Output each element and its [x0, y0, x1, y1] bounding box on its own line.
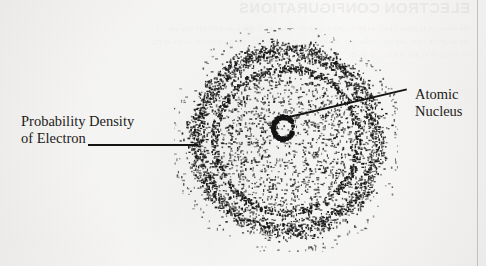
column-rule [477, 0, 478, 266]
label-atomic-nucleus: Atomic Nucleus [415, 86, 463, 120]
label-atomic-nucleus-line1: Atomic [415, 86, 463, 103]
label-probability-density-line2: of Electron [21, 130, 134, 147]
label-atomic-nucleus-line2: Nucleus [415, 103, 463, 120]
label-probability-density-line1: Probability Density [21, 113, 134, 130]
electron-probability-density-cloud [174, 28, 398, 252]
bleed-through-heading: ELECTRON CONFIGURATIONS [200, 0, 470, 17]
figure-page: ELECTRON CONFIGURATIONS the electron is … [0, 0, 486, 266]
label-probability-density-of-electron: Probability Density of Electron [21, 113, 134, 147]
